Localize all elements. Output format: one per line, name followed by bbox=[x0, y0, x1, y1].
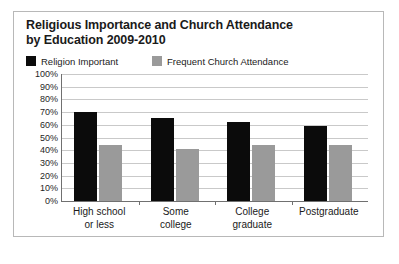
bars-layer bbox=[62, 74, 368, 201]
plot-wrapper: 100%90%80%70%60%50%40%30%20%10%0% High s… bbox=[14, 12, 385, 238]
x-axis-label-line: Some bbox=[138, 205, 215, 218]
bar-1-3 bbox=[329, 145, 352, 201]
y-axis-tick-label: 60% bbox=[14, 120, 58, 130]
bar-0-3 bbox=[304, 126, 327, 201]
plot-area bbox=[61, 74, 368, 202]
x-axis-label-line: graduate bbox=[214, 218, 291, 231]
y-axis-tick-label: 10% bbox=[14, 183, 58, 193]
y-axis-tick-label: 40% bbox=[14, 145, 58, 155]
y-axis-tick-label: 70% bbox=[14, 107, 58, 117]
x-axis-label-line: college bbox=[138, 218, 215, 231]
y-axis-tick-label: 30% bbox=[14, 158, 58, 168]
x-axis-category-labels: High schoolor lessSomecollegeCollegegrad… bbox=[61, 205, 367, 235]
x-axis-label-line: High school bbox=[61, 205, 138, 218]
y-axis-tick-label: 20% bbox=[14, 171, 58, 181]
y-axis-tick-label: 100% bbox=[14, 69, 58, 79]
chart-figure-frame: Religious Importance and Church Attendan… bbox=[13, 11, 384, 237]
bar-0-0 bbox=[74, 112, 97, 201]
y-axis-tick-labels: 100%90%80%70%60%50%40%30%20%10%0% bbox=[14, 74, 58, 201]
x-axis-label-2: Collegegraduate bbox=[214, 205, 291, 231]
bar-1-1 bbox=[176, 149, 199, 201]
x-axis-label-line: Postgraduate bbox=[291, 205, 368, 218]
bar-0-1 bbox=[151, 118, 174, 201]
y-axis-tick-label: 80% bbox=[14, 94, 58, 104]
bar-0-2 bbox=[227, 122, 250, 201]
x-axis-label-line: College bbox=[214, 205, 291, 218]
x-axis-label-line: or less bbox=[61, 218, 138, 231]
x-axis-label-1: Somecollege bbox=[138, 205, 215, 231]
y-axis-tick-label: 0% bbox=[14, 196, 58, 206]
y-axis-tick-label: 90% bbox=[14, 82, 58, 92]
x-axis-label-0: High schoolor less bbox=[61, 205, 138, 231]
y-axis-tick-label: 50% bbox=[14, 133, 58, 143]
bar-1-0 bbox=[99, 145, 122, 201]
x-axis-label-3: Postgraduate bbox=[291, 205, 368, 218]
bar-1-2 bbox=[252, 145, 275, 201]
